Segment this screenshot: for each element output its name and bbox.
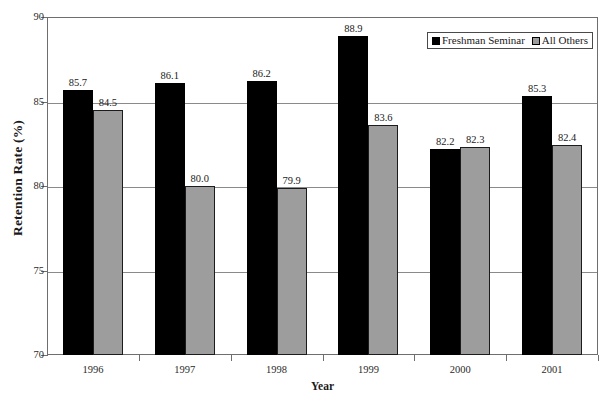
legend-label: All Others (542, 35, 588, 46)
x-tick-label-2001: 2001 (517, 364, 587, 376)
y-tick-label: 75 (4, 266, 44, 276)
gridline-y-75 (48, 272, 597, 273)
x-tick-mark (323, 355, 324, 361)
black-square-swatch (432, 37, 440, 45)
bar-value-label: 80.0 (180, 173, 220, 184)
bar-value-label: 88.9 (333, 23, 373, 34)
x-tick-mark (414, 355, 415, 361)
bar-value-label: 83.6 (363, 112, 403, 123)
x-axis-title: Year (47, 380, 598, 392)
x-tick-label-1998: 1998 (242, 364, 312, 376)
x-tick-label-2000: 2000 (425, 364, 495, 376)
bar-1998-series-1 (277, 188, 307, 355)
legend-label: Freshman Seminar (442, 35, 525, 46)
y-tick-label: 80 (4, 181, 44, 191)
bar-value-label: 86.2 (242, 68, 282, 79)
bar-1996-series-0 (63, 90, 93, 355)
gray-square-swatch (532, 37, 540, 45)
x-tick-label-1996: 1996 (58, 364, 128, 376)
bar-1996-series-1 (93, 110, 123, 355)
bar-1997-series-1 (185, 186, 215, 355)
bar-value-label: 85.3 (517, 83, 557, 94)
bar-1998-series-0 (247, 81, 277, 355)
x-tick-label-1999: 1999 (333, 364, 403, 376)
y-axis-title: Retention Rate (%) (10, 88, 26, 268)
gridline-y-85 (48, 103, 597, 104)
bar-value-label: 85.7 (58, 77, 98, 88)
bar-value-label: 82.3 (455, 134, 495, 145)
bar-1999-series-1 (368, 125, 398, 355)
plot-area (47, 17, 598, 355)
y-tick-label: 70 (4, 350, 44, 360)
bar-value-label: 79.9 (272, 175, 312, 186)
bar-1997-series-0 (155, 83, 185, 355)
bar-1999-series-0 (338, 36, 368, 355)
x-tick-label-1997: 1997 (150, 364, 220, 376)
retention-rate-bar-chart: Retention Rate (%) 9085807570 1996199719… (0, 0, 613, 397)
chart-legend: Freshman SeminarAll Others (427, 32, 593, 49)
bar-value-label: 84.5 (88, 97, 128, 108)
x-tick-mark (139, 355, 140, 361)
x-tick-mark (506, 355, 507, 361)
y-tick-label: 90 (4, 12, 44, 22)
bar-2000-series-1 (460, 147, 490, 355)
legend-entry-0: Freshman Seminar (432, 35, 525, 46)
bar-value-label: 82.4 (547, 132, 587, 143)
bar-value-label: 86.1 (150, 70, 190, 81)
bar-2000-series-0 (430, 149, 460, 355)
y-tick-label: 85 (4, 97, 44, 107)
x-tick-mark (231, 355, 232, 361)
x-tick-mark (598, 355, 599, 361)
cropped-title-remnant (60, 0, 360, 4)
bar-2001-series-1 (552, 145, 582, 355)
legend-entry-1: All Others (532, 35, 588, 46)
gridline-y-80 (48, 187, 597, 188)
